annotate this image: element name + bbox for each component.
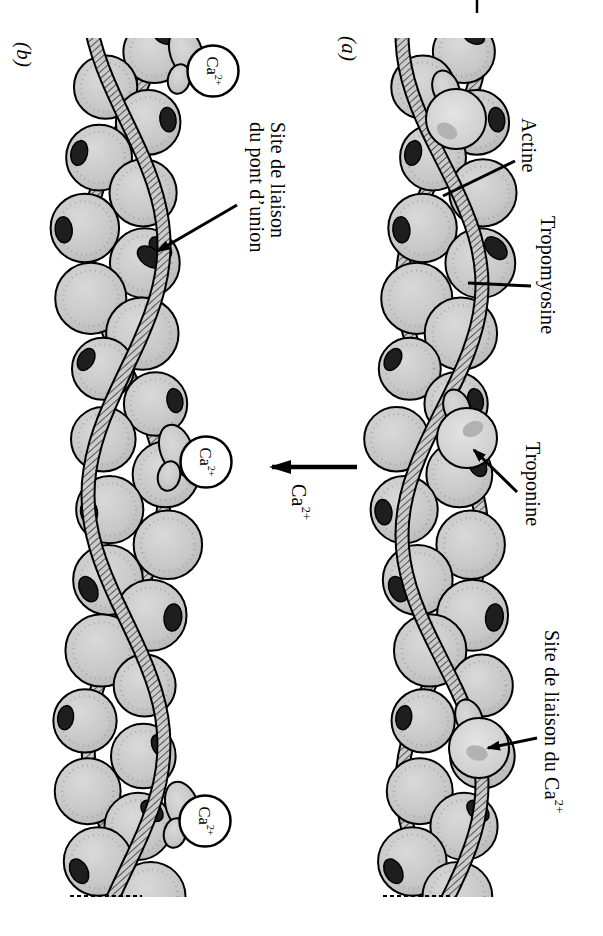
- troponin: [437, 408, 497, 468]
- panel-b-tag: (b): [12, 42, 35, 67]
- ion-superscript: 2+: [213, 75, 224, 86]
- actin-bead: [134, 511, 203, 580]
- calcium-superscript: 2+: [552, 800, 566, 814]
- calcium-ion-label-bottom: Ca2+: [195, 806, 215, 835]
- ion-superscript: 2+: [206, 466, 217, 477]
- troponin: [426, 89, 486, 149]
- filament-a: [364, 21, 516, 932]
- calcium-ion-label-top: Ca2+: [203, 56, 223, 85]
- arrow-calcium-label: Ca2+: [287, 484, 312, 520]
- calcium-binding-site-label: Site de liaison du Ca2+: [540, 630, 565, 813]
- crossbridge-binding-site-label: Site de liaison du pont d’union: [245, 122, 288, 253]
- panel-a-tag: (a): [337, 36, 360, 61]
- ion-superscript: 2+: [205, 825, 216, 836]
- ion-base: Ca: [203, 56, 222, 74]
- ion-base: Ca: [195, 806, 214, 824]
- arrow-calcium-base: Ca: [288, 484, 310, 507]
- troponin-label: Troponine: [521, 442, 543, 526]
- calcium-binding-site-text: Site de liaison du Ca: [541, 630, 563, 800]
- calcium-ion-label-middle: Ca2+: [196, 447, 216, 476]
- actin-label: Actine: [517, 118, 539, 173]
- crossbridge-label-line2: du pont d’union: [245, 122, 267, 253]
- figure-muscle-regulation-diagram: (a) (b) Actine Tropomyosine Troponine Si…: [0, 0, 603, 936]
- ion-base: Ca: [196, 447, 215, 465]
- crossbridge-label-line1: Site de liaison: [267, 122, 289, 253]
- tropomyosin-label: Tropomyosine: [536, 216, 558, 334]
- filament-illustration: [0, 0, 603, 936]
- arrow-calcium-superscript: 2+: [299, 507, 313, 521]
